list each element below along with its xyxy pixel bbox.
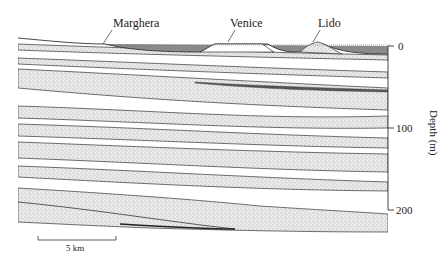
- sand-layer-4: [18, 106, 388, 128]
- lido-leader: [313, 30, 320, 42]
- label-venice: Venice: [230, 16, 263, 31]
- label-lido: Lido: [318, 16, 341, 31]
- depth-tick-label-100: 100: [396, 122, 413, 134]
- venice-leader: [228, 30, 235, 42]
- depth-tick-label-0: 0: [398, 40, 404, 52]
- depth-tick-label-200: 200: [396, 204, 413, 216]
- marghera-leader: [103, 30, 112, 44]
- cross-section-diagram: [0, 0, 448, 262]
- scale-bar-label: 5 km: [66, 243, 84, 253]
- scale-bar: [38, 236, 116, 240]
- sediment-layers: [18, 44, 388, 232]
- depth-axis-title: Depth (m): [428, 110, 440, 156]
- label-marghera: Marghera: [113, 16, 159, 31]
